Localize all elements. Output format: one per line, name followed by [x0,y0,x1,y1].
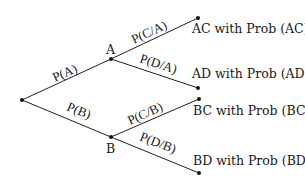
leaf-bd [197,171,201,175]
leaf-bc [197,97,201,101]
node-a-label: A [105,42,116,57]
edge-label-pb: P(B) [65,99,93,122]
edge-label-pca: P(C/A) [129,17,169,46]
outcome-ad: AD with Prob (AD) [191,66,305,81]
leaf-ac [196,16,200,20]
probability-tree: A B P(A) P(B) P(C/A) P(D/A) P(C/B) P(D/B… [0,0,305,189]
node-b [109,135,113,139]
edge-label-pdb: P(D/B) [138,129,178,156]
node-root [20,98,24,102]
node-b-label: B [106,141,115,156]
outcome-bd: BD with Prob (BD) [193,153,305,168]
node-a [109,57,113,61]
edge-label-pda: P(D/A) [138,51,179,77]
outcome-ac: AC with Prob (AC) [191,21,305,36]
edge-label-pa: P(A) [50,61,79,85]
leaf-ad [196,86,200,90]
edge-label-pcb: P(C/B) [125,99,165,128]
outcome-bc: BC with Prob (BC) [193,103,305,118]
edge-root-b [22,100,111,137]
